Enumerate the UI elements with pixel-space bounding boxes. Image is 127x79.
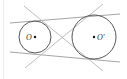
center-point-small: [34, 36, 36, 38]
center-label-small: O: [26, 33, 32, 42]
center-point-large: [93, 36, 95, 38]
top-external-tangent-line: [10, 14, 120, 23]
center-label-large: O': [97, 33, 105, 42]
two-circles-tangent-diagram: OO': [0, 0, 127, 79]
circles: OO': [19, 15, 116, 59]
internal-descending-tangent-line: [24, 6, 103, 71]
left-border-line: [3, 0, 4, 79]
diagram-canvas: OO': [0, 0, 127, 79]
